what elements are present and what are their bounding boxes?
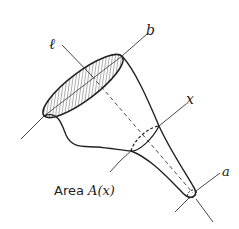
- label-b: b: [146, 22, 155, 38]
- caption-prefix: Area: [54, 183, 88, 198]
- label-x: x: [186, 91, 194, 107]
- line-x: [110, 104, 186, 172]
- caption-function: A(x): [87, 183, 115, 198]
- label-a: a: [222, 164, 230, 179]
- cross-section-x: [131, 126, 159, 151]
- solid-cross-section-diagram: ℓ b x a Area A(x): [0, 0, 239, 229]
- end-section-a: [186, 188, 198, 200]
- caption-area: Area A(x): [54, 183, 115, 198]
- label-l: ℓ: [49, 35, 55, 53]
